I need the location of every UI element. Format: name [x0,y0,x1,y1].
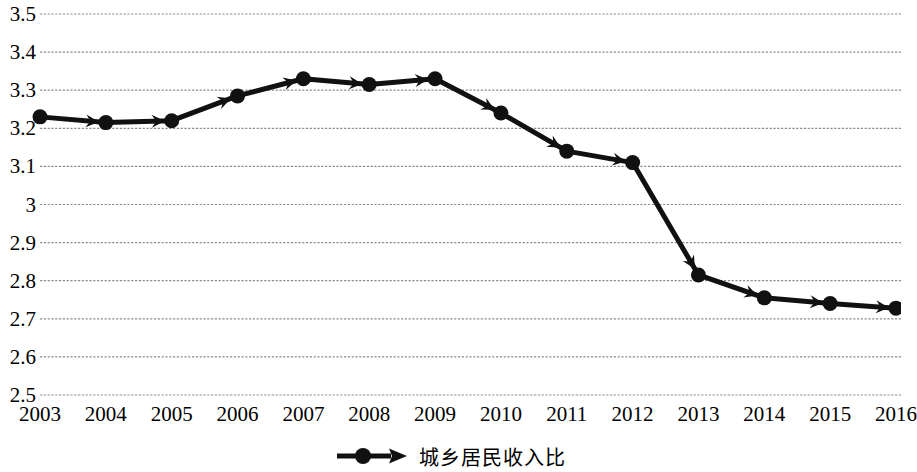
x-axis-tick-label: 2004 [85,404,127,425]
x-axis-tick-label: 2014 [743,404,785,425]
series-layer [33,71,902,315]
data-point-marker [757,290,772,305]
y-axis-tick-label: 2.9 [0,232,36,253]
data-point-marker [98,115,113,130]
data-point-marker [625,155,640,170]
x-axis-tick-labels: 2003200420052006200720082009201020112012… [0,404,901,432]
x-axis-tick-label: 2016 [875,404,917,425]
line-circle-arrow-icon [335,445,409,467]
series-line [40,79,896,308]
gridlines [40,14,901,395]
x-axis-tick-label: 2010 [480,404,522,425]
y-axis-tick-label: 2.8 [0,270,36,291]
x-axis-tick-label: 2006 [217,404,259,425]
y-axis-tick-label: 3.5 [0,4,36,25]
x-axis-tick-label: 2008 [348,404,390,425]
data-point-marker [164,113,179,128]
data-point-marker [296,71,311,86]
x-axis-tick-label: 2009 [414,404,456,425]
y-axis-tick-label: 3.1 [0,156,36,177]
chart-legend: 城乡居民收入比 [0,440,901,472]
data-point-marker [889,301,902,316]
x-axis-tick-label: 2015 [809,404,851,425]
data-point-marker [691,267,706,282]
x-axis-tick-label: 2011 [546,404,587,425]
x-axis-tick-label: 2013 [677,404,719,425]
data-point-marker [362,77,377,92]
data-point-marker [230,88,245,103]
data-point-marker [559,144,574,159]
y-axis-tick-label: 3.4 [0,42,36,63]
x-axis-tick-label: 2012 [612,404,654,425]
x-axis-tick-label: 2007 [282,404,324,425]
y-axis-tick-label: 3.3 [0,80,36,101]
data-point-marker [823,296,838,311]
x-axis-tick-label: 2005 [151,404,193,425]
y-axis-tick-labels: 3.53.43.33.23.132.92.82.72.62.5 [0,0,36,410]
legend-item-label: 城乡居民收入比 [419,442,566,471]
y-axis-tick-label: 3.2 [0,118,36,139]
data-point-marker [493,106,508,121]
x-axis-tick-label: 2003 [19,404,61,425]
data-point-marker [428,71,443,86]
y-axis-tick-label: 3 [0,194,36,215]
y-axis-tick-label: 2.7 [0,308,36,329]
y-axis-tick-label: 2.6 [0,346,36,367]
